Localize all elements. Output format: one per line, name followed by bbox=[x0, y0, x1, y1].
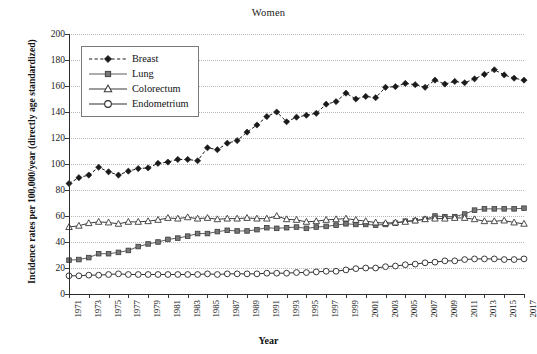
data-point bbox=[383, 264, 389, 270]
data-point bbox=[294, 270, 300, 276]
data-point bbox=[511, 75, 517, 81]
data-point bbox=[76, 273, 82, 279]
data-point bbox=[235, 229, 240, 234]
data-point bbox=[225, 228, 230, 233]
data-point bbox=[482, 256, 488, 262]
data-point bbox=[96, 251, 101, 256]
data-point bbox=[481, 71, 487, 77]
data-point bbox=[254, 271, 260, 277]
x-tick-label: 2011 bbox=[469, 300, 479, 317]
data-point bbox=[472, 208, 477, 213]
data-point bbox=[313, 269, 319, 275]
data-point bbox=[194, 158, 200, 164]
data-point bbox=[343, 215, 349, 221]
data-point bbox=[165, 159, 171, 165]
data-point bbox=[442, 258, 448, 264]
data-point bbox=[116, 271, 122, 277]
data-point bbox=[145, 165, 151, 171]
data-point bbox=[333, 268, 339, 274]
data-point bbox=[521, 77, 527, 83]
data-point bbox=[344, 222, 349, 227]
x-tick-label: 1983 bbox=[192, 300, 202, 318]
data-point bbox=[353, 266, 359, 272]
data-point bbox=[176, 236, 181, 241]
data-point bbox=[265, 225, 270, 230]
data-point bbox=[323, 101, 329, 107]
data-point bbox=[106, 272, 112, 278]
data-point bbox=[105, 169, 111, 175]
data-point bbox=[115, 172, 121, 178]
x-tick-label: 1991 bbox=[271, 300, 281, 318]
data-point bbox=[363, 93, 369, 99]
y-axis-line bbox=[69, 34, 70, 294]
x-tick-label: 1977 bbox=[132, 300, 142, 318]
data-point bbox=[393, 263, 399, 269]
data-point bbox=[106, 251, 111, 256]
y-tick-label: 100 bbox=[51, 159, 65, 169]
data-point bbox=[166, 237, 171, 242]
x-tick-mark bbox=[524, 294, 525, 298]
data-point bbox=[491, 256, 497, 262]
data-point bbox=[501, 217, 507, 223]
data-point bbox=[146, 242, 151, 247]
data-point bbox=[165, 215, 171, 221]
x-tick-label: 2003 bbox=[390, 300, 400, 318]
data-point bbox=[264, 270, 270, 276]
y-tick-label: 0 bbox=[60, 289, 65, 299]
data-point bbox=[136, 244, 141, 249]
series-endometrium bbox=[66, 256, 527, 279]
data-point bbox=[402, 262, 408, 268]
data-point bbox=[492, 207, 497, 212]
data-point bbox=[334, 223, 339, 228]
data-point bbox=[205, 271, 211, 277]
data-point bbox=[185, 234, 190, 239]
data-point bbox=[214, 147, 220, 153]
y-tick-label: 180 bbox=[51, 55, 65, 65]
data-point bbox=[392, 84, 398, 90]
x-tick-label: 1985 bbox=[211, 300, 221, 318]
data-point bbox=[205, 231, 210, 236]
x-tick-label: 1993 bbox=[291, 300, 301, 318]
legend-swatch-endometrium bbox=[88, 97, 128, 111]
legend-label-lung: Lung bbox=[132, 68, 154, 79]
x-tick-label: 1975 bbox=[113, 300, 123, 318]
data-point bbox=[462, 257, 468, 263]
data-point bbox=[165, 272, 171, 278]
data-point bbox=[145, 272, 151, 278]
data-point bbox=[255, 227, 260, 232]
data-point bbox=[324, 224, 329, 229]
x-tick-label: 1971 bbox=[73, 300, 83, 318]
data-point bbox=[125, 272, 131, 278]
y-tick-label: 140 bbox=[51, 107, 65, 117]
y-tick-label: 20 bbox=[56, 263, 66, 273]
x-tick-label: 1987 bbox=[231, 300, 241, 318]
data-point bbox=[284, 270, 290, 276]
x-tick-label: 2005 bbox=[409, 300, 419, 318]
data-point bbox=[472, 256, 478, 262]
data-point bbox=[125, 168, 131, 174]
y-tick-label: 60 bbox=[56, 211, 66, 221]
data-point bbox=[333, 99, 339, 105]
data-point bbox=[432, 259, 438, 265]
data-point bbox=[96, 272, 102, 278]
data-point bbox=[353, 96, 359, 102]
chart-legend: Breast Lung Colorectum Endometrium bbox=[81, 46, 199, 117]
data-point bbox=[273, 213, 279, 219]
data-point bbox=[501, 72, 507, 78]
data-point bbox=[471, 76, 477, 82]
y-tick-label: 40 bbox=[56, 237, 66, 247]
legend-item-breast: Breast bbox=[88, 51, 189, 66]
data-point bbox=[86, 255, 91, 260]
legend-label-breast: Breast bbox=[132, 53, 158, 64]
data-point bbox=[511, 257, 517, 263]
data-point bbox=[274, 226, 279, 231]
data-point bbox=[412, 82, 418, 88]
data-point bbox=[185, 156, 191, 162]
x-tick-label: 2013 bbox=[488, 300, 498, 318]
x-tick-label: 2009 bbox=[449, 300, 459, 318]
chart-title: Women bbox=[0, 7, 537, 18]
x-tick-label: 1981 bbox=[172, 300, 182, 318]
data-point bbox=[76, 175, 82, 181]
data-point bbox=[442, 81, 448, 87]
data-point bbox=[184, 214, 190, 220]
